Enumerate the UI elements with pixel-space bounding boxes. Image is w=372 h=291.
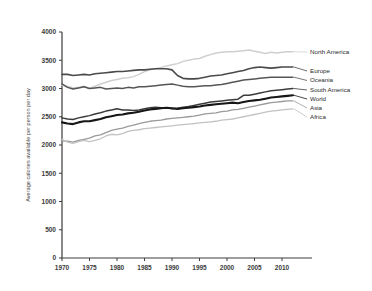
series-label-north-america: North America (310, 48, 350, 55)
axis-lines (62, 32, 312, 258)
x-tick-label: 1985 (137, 264, 152, 271)
y-tick-label: 4000 (42, 28, 57, 35)
y-tick-label: 500 (45, 226, 56, 233)
y-tick-label: 2000 (42, 141, 57, 148)
y-tick-label: 1000 (42, 198, 57, 205)
series-line-europe (62, 67, 293, 79)
series-line-asia (62, 101, 293, 142)
series-label-oceania: Oceania (310, 76, 334, 83)
x-tick-label: 2005 (247, 264, 262, 271)
x-tick-label: 1990 (165, 264, 180, 271)
series-label-south-america: South America (310, 86, 351, 93)
x-tick-label: 2010 (275, 264, 290, 271)
series-labels-group: North AmericaEuropeOceaniaSouth AmericaW… (294, 48, 351, 120)
chart-canvas: Average calories available per person pe… (0, 0, 372, 291)
y-axis-title: Average calories available per person pe… (25, 88, 31, 202)
series-line-world (62, 95, 293, 124)
series-leader-south-america (294, 89, 307, 91)
x-tick-label: 1995 (192, 264, 207, 271)
series-line-north-america (62, 50, 293, 88)
series-leader-asia (294, 101, 307, 108)
series-label-world: World (310, 95, 327, 102)
y-tick-label: 1500 (42, 170, 57, 177)
x-tick-label: 1970 (55, 264, 70, 271)
x-axis-ticks: 197019751980198519901995200020052010 (55, 258, 290, 271)
y-axis-title-text: Average calories available per person pe… (25, 88, 31, 202)
y-tick-label: 2500 (42, 113, 57, 120)
calories-line-chart: Average calories available per person pe… (0, 0, 372, 291)
series-line-south-america (62, 89, 293, 120)
y-tick-label: 0 (52, 254, 56, 261)
x-tick-label: 1975 (82, 264, 97, 271)
series-leader-oceania (294, 77, 307, 80)
y-axis-ticks: 05001000150020002500300035004000 (42, 28, 62, 261)
data-series-group (62, 50, 293, 143)
x-tick-label: 1980 (110, 264, 125, 271)
series-label-asia: Asia (310, 104, 323, 111)
x-tick-label: 2000 (220, 264, 235, 271)
series-leader-world (294, 95, 307, 99)
series-label-africa: Africa (310, 113, 326, 120)
y-tick-label: 3500 (42, 57, 57, 64)
series-label-europe: Europe (310, 67, 331, 74)
series-leader-europe (294, 67, 307, 71)
y-tick-label: 3000 (42, 85, 57, 92)
series-leader-africa (294, 109, 307, 117)
series-line-oceania (62, 77, 293, 89)
